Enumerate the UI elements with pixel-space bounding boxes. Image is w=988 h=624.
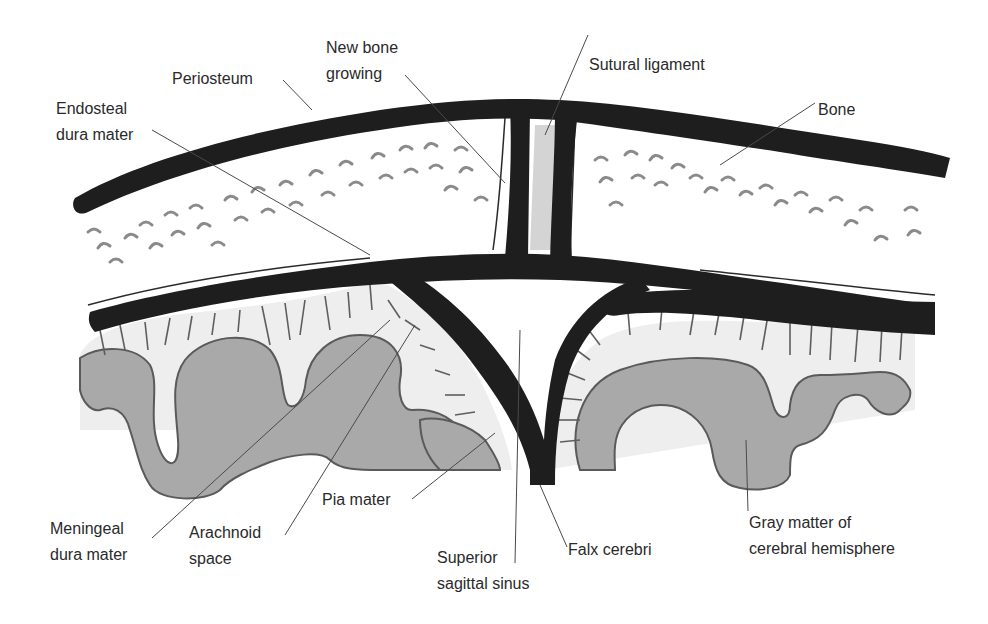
label-superior-2: sagittal sinus (437, 575, 530, 592)
label-arachnoid-1: Arachnoid (189, 524, 261, 541)
label-new-bone-2: growing (326, 65, 382, 82)
label-sutural-ligament: Sutural ligament (589, 56, 705, 73)
label-endosteal-2: dura mater (56, 126, 134, 143)
label-endosteal-1: Endosteal (56, 100, 127, 117)
label-bone: Bone (818, 101, 855, 118)
label-gray-matter-1: Gray matter of (749, 514, 852, 531)
label-meningeal-2: dura mater (50, 546, 128, 563)
label-meningeal-1: Meningeal (50, 520, 124, 537)
gray-matter-right (544, 321, 915, 490)
label-new-bone-1: New bone (326, 39, 398, 56)
label-periosteum: Periosteum (172, 70, 253, 87)
label-arachnoid-2: space (189, 550, 232, 567)
meninges-diagram: Periosteum New bone growing Sutural liga… (0, 0, 988, 624)
label-falx-cerebri: Falx cerebri (568, 541, 652, 558)
label-superior-1: Superior (437, 549, 498, 566)
label-pia-mater: Pia mater (322, 491, 391, 508)
label-gray-matter-2: cerebral hemisphere (749, 540, 895, 557)
